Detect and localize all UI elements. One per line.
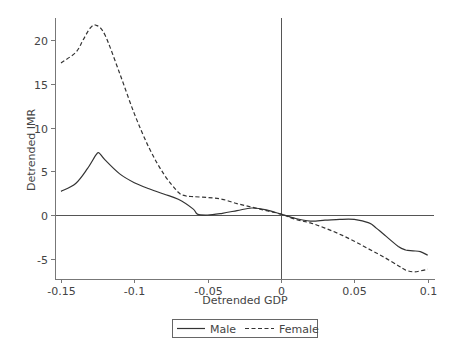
y-tick-label: 20 (34, 35, 48, 48)
y-tick-label: 5 (41, 166, 48, 179)
x-tick-label: 0.05 (342, 285, 367, 298)
legend-male-label: Male (210, 323, 236, 336)
x-tick-label: -0.15 (47, 285, 75, 298)
x-axis-title: Detrended GDP (202, 294, 288, 307)
legend-female-label: Female (279, 323, 319, 336)
series-male-line (61, 152, 428, 255)
y-axis-title: Detrended IMR (25, 109, 38, 192)
legend: Male Female (173, 320, 320, 338)
y-tick-label: -5 (37, 254, 48, 267)
y-tick-label: 15 (34, 79, 48, 92)
x-tick-label: 0.1 (420, 285, 438, 298)
series-female-line (61, 25, 428, 272)
x-tick-label: -0.1 (124, 285, 145, 298)
plot-area (55, 18, 434, 279)
y-tick-label: 0 (41, 210, 48, 223)
chart: -0.15-0.1-0.0500.050.1 -505101520 Detren… (0, 0, 454, 356)
